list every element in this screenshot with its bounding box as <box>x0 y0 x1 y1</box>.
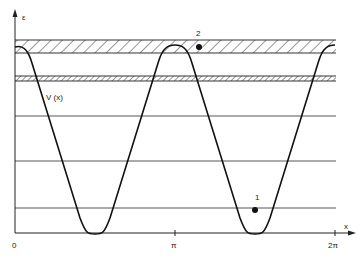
x-axis-arrow-icon <box>348 231 356 236</box>
y-axis-arrow-icon <box>13 9 18 17</box>
x-tick-pi: π <box>171 241 177 250</box>
x-axis-label: x <box>344 222 348 231</box>
point-2-label: 2 <box>196 29 201 38</box>
point-1-marker <box>252 207 258 213</box>
potential-diagram: ε x 0 π 2π V (x) 2 1 <box>0 0 361 263</box>
potential-curve <box>15 45 335 234</box>
point-1-label: 1 <box>255 193 260 202</box>
lower-hatched-band <box>15 76 336 81</box>
x-tick-0: 0 <box>12 241 17 250</box>
point-2-marker <box>196 44 202 50</box>
x-tick-2pi: 2π <box>328 241 338 250</box>
upper-hatched-band <box>15 40 336 53</box>
y-axis-label: ε <box>22 13 26 22</box>
curve-label: V (x) <box>46 93 63 102</box>
x-axis <box>15 230 356 236</box>
